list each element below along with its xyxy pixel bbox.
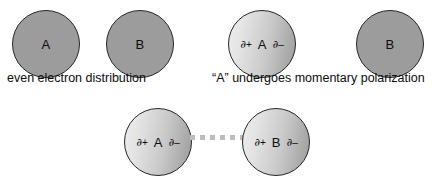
- partial-positive-icon: ∂+: [254, 137, 266, 148]
- partial-negative-icon: ∂–: [168, 137, 179, 148]
- atom-circle-b-neutral-2: B: [356, 10, 424, 78]
- atom-label: B: [386, 38, 395, 51]
- atom-label: B: [136, 38, 145, 51]
- charge-row: ∂+ B ∂–: [243, 136, 309, 149]
- clipped-bottom-text: [110, 176, 340, 181]
- partial-negative-icon: ∂–: [272, 39, 283, 50]
- partial-positive-icon: ∂+: [136, 137, 148, 148]
- dispersion-force-diagram: A B even electron distribution ∂+ A ∂– B…: [0, 0, 432, 181]
- clipped-top-text: [24, 0, 224, 4]
- atom-label: B: [272, 136, 281, 149]
- atom-circle-b-induced: ∂+ B ∂–: [242, 108, 310, 176]
- atom-label: A: [154, 136, 163, 149]
- partial-negative-icon: ∂–: [286, 137, 297, 148]
- atom-circle-b-neutral: B: [106, 10, 174, 78]
- caption-even-distribution: even electron distribution: [7, 72, 146, 85]
- atom-label: A: [258, 38, 267, 51]
- charge-row: ∂+ A ∂–: [125, 136, 191, 149]
- atom-circle-a-neutral: A: [12, 10, 80, 78]
- charge-row: ∂+ A ∂–: [229, 38, 295, 51]
- atom-circle-a-induced: ∂+ A ∂–: [124, 108, 192, 176]
- partial-positive-icon: ∂+: [240, 39, 252, 50]
- atom-label: A: [42, 38, 51, 51]
- atom-circle-a-polarized: ∂+ A ∂–: [228, 10, 296, 78]
- dispersion-interaction-connector: [190, 135, 246, 140]
- caption-momentary-polarization: “A” undergoes momentary polarization: [212, 72, 425, 85]
